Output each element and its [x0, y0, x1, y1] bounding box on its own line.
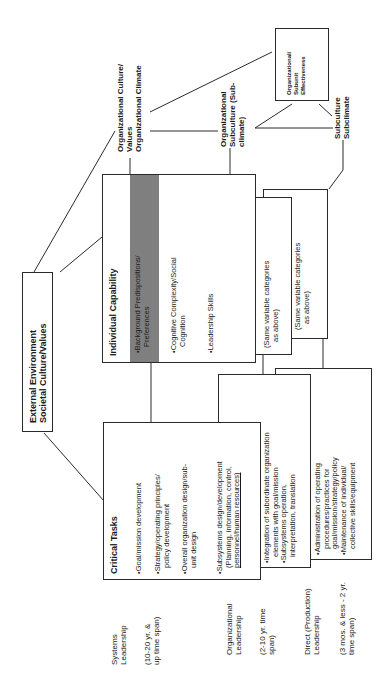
- direct-timespan-label: (3 mos. & less - 2 yr. time span): [338, 582, 356, 655]
- org-subculture-line2: Subculture (Sub-: [228, 83, 237, 147]
- same-categories-box-organizational: (Same variable categories as above): [255, 197, 292, 355]
- individual-capability-box: Individual Capability •Background Predis…: [102, 174, 256, 363]
- org-subculture-line1: Organizational: [219, 83, 228, 147]
- org-climate-line: Organizational Climate: [134, 64, 143, 152]
- critical-task-overall-design-cont: unit design: [190, 464, 199, 574]
- direct-timespan-line1: (3 mos. & less - 2 yr.: [338, 582, 347, 655]
- systems-timespan-label: (10-20 yr. & up time span): [143, 617, 161, 665]
- direct-leadership-name1: Direct (Production): [303, 588, 312, 655]
- critical-task-strategy-cont: policy development: [163, 474, 172, 574]
- same-categories-direct-line2: as above): [303, 243, 312, 330]
- org-timespan-line2: span): [267, 608, 276, 655]
- systems-timespan-line2: up time span): [152, 617, 161, 665]
- same-categories-org-line2: as above): [272, 261, 281, 348]
- org-leadership-name1: Organizational: [225, 603, 234, 655]
- external-environment-box: External Environment Societal Culture/Va…: [22, 272, 53, 432]
- systems-leadership-label: Systems Leadership: [110, 625, 128, 665]
- systems-timespan-line1: (10-20 yr. &: [143, 617, 152, 665]
- org-subculture-line3: climate): [237, 83, 246, 147]
- direct-leadership-label: Direct (Production) Leadership: [303, 588, 321, 655]
- ic-item-cognitive-cont: Cognition: [179, 257, 188, 353]
- direct-leadership-name2: Leadership: [312, 588, 321, 655]
- effectiveness-line1: Organizational/: [286, 52, 293, 95]
- effectiveness-line3: Effectiveness: [300, 52, 307, 95]
- organizational-leadership-label: Organizational Leadership: [225, 603, 243, 655]
- org-culture-line1: Organizational Culture/: [116, 64, 125, 152]
- org-leadership-name2: Leadership: [234, 603, 243, 655]
- external-environment-title: External Environment: [28, 323, 38, 423]
- subculture-line2: Subclimate: [342, 96, 351, 139]
- societal-culture-title: Societal Culture/Values: [38, 323, 48, 423]
- direct-timespan-line2: time span): [347, 582, 356, 655]
- org-culture-line2: Values: [125, 64, 134, 152]
- org-subculture-label: Organizational Subculture (Sub- climate): [219, 83, 247, 147]
- direct-task-2-cont: collective skills/equipment: [349, 457, 358, 555]
- effectiveness-line2: Subunit: [293, 52, 300, 95]
- ic-item-leadership-skills: •Leadership Skills: [207, 294, 216, 353]
- critical-task-subsystems-cont2: personnel/human resources): [233, 461, 242, 574]
- org-timespan-line1: (2-10 yr. time: [258, 608, 267, 655]
- ic-item-background-cont: Preferences: [143, 255, 152, 353]
- critical-tasks-box: Critical Tasks •Goal/mission development…: [103, 422, 261, 580]
- systems-leadership-name2: Leadership: [119, 625, 128, 665]
- organizational-effectiveness-box: Organizational/ Subunit Effectiveness: [275, 28, 329, 101]
- individual-capability-title: Individual Capability: [108, 268, 118, 356]
- subculture-line1: Subculture: [333, 96, 342, 139]
- org-culture-climate-label: Organizational Culture/ Values Organizat…: [116, 64, 144, 152]
- critical-task-goal: •Goal/mission development: [135, 483, 144, 574]
- org-task-2-cont: interpretation, translation: [289, 432, 298, 563]
- critical-tasks-title: Critical Tasks: [109, 516, 119, 574]
- systems-leadership-name1: Systems: [110, 625, 119, 665]
- organizational-timespan-label: (2-10 yr. time span): [258, 608, 276, 655]
- subculture-subclimate-label: Subculture Subclimate: [333, 96, 351, 139]
